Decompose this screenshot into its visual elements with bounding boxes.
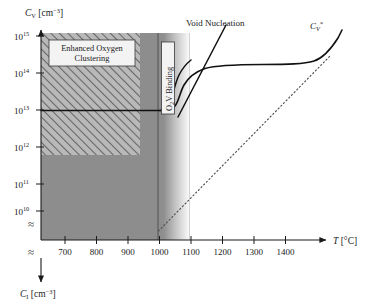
x-tick-1100: 1100 xyxy=(182,247,200,257)
region-dark-column xyxy=(140,33,158,240)
x-tick-1200: 1200 xyxy=(214,247,233,257)
x-tick-1000: 1000 xyxy=(151,247,170,257)
annotation-o2v-binding: O2V Binding xyxy=(162,42,175,114)
enhanced-oxygen-clustering-line2: Clustering xyxy=(75,54,111,63)
y-axis-break-lower: ≈ xyxy=(28,246,34,258)
x-axis-title: T [°C] xyxy=(333,236,357,246)
x-tick-700: 700 xyxy=(58,247,72,257)
void-nucleation-label: Void Nucleation xyxy=(186,18,245,28)
enhanced-oxygen-clustering-line1: Enhanced Oxygen xyxy=(61,44,123,53)
annotation-enhanced-oxygen-clustering: Enhanced Oxygen Clustering xyxy=(49,40,135,66)
x-tick-1300: 1300 xyxy=(245,247,264,257)
x-tick-900: 900 xyxy=(121,247,135,257)
y-axis-break-upper: ≈ xyxy=(28,218,34,230)
x-tick-1400: 1400 xyxy=(277,247,296,257)
figure-container: 10^15 1015 1014 1013 1012 1011 1010 ≈ ≈ xyxy=(0,0,366,307)
semiconductor-vacancy-concentration-chart: 10^15 1015 1014 1013 1012 1011 1010 ≈ ≈ xyxy=(0,0,366,307)
x-tick-800: 800 xyxy=(90,247,104,257)
